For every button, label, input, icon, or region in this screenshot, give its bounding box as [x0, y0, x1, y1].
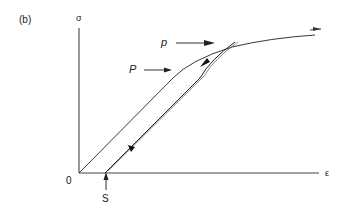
reloading-line: [105, 42, 235, 173]
point-label-P-lower: P: [129, 64, 136, 75]
point-label-S: S: [102, 194, 109, 204]
P-marker-arrow-icon: [164, 68, 172, 73]
point-label-p-upper: p: [161, 37, 167, 48]
p-marker-arrow-icon: [204, 40, 215, 46]
panel-label: (b): [19, 15, 31, 25]
origin-label: 0: [66, 176, 72, 186]
x-axis-label: ε: [325, 169, 329, 178]
arrow-head-icon: [313, 27, 321, 31]
y-axis-label: σ: [76, 14, 82, 23]
stress-strain-diagram: [0, 0, 349, 208]
unloading-line: [108, 42, 238, 171]
loading-curve: [79, 35, 315, 173]
